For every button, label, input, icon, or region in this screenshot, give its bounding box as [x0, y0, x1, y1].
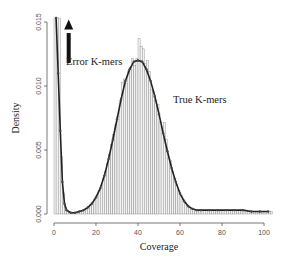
- histogram-bar: [113, 135, 115, 214]
- histogram-bar: [107, 163, 109, 214]
- y-tick-label: 0.015: [35, 13, 42, 31]
- density-marker: [187, 205, 189, 207]
- density-marker: [166, 150, 168, 152]
- histogram-bar: [102, 179, 104, 214]
- density-marker: [107, 158, 109, 160]
- density-marker: [233, 209, 235, 211]
- x-ticks: 020406080100: [52, 223, 270, 236]
- density-marker: [217, 209, 219, 211]
- histogram-bar: [54, 18, 56, 214]
- histogram-bar: [130, 67, 132, 214]
- histogram-bar: [144, 64, 146, 214]
- density-marker: [225, 209, 227, 211]
- density-marker: [200, 209, 202, 211]
- x-tick-label: 20: [92, 229, 100, 236]
- histogram-bar: [167, 158, 169, 214]
- density-marker: [191, 208, 193, 210]
- density-marker: [116, 118, 118, 120]
- histogram-bar: [140, 46, 142, 214]
- density-marker: [63, 203, 65, 205]
- histogram-bar: [174, 178, 176, 214]
- density-marker: [95, 196, 97, 198]
- density-marker: [128, 68, 130, 70]
- histogram-bar: [136, 58, 138, 214]
- density-marker: [170, 167, 172, 169]
- density-marker: [103, 174, 105, 176]
- histogram-bar: [159, 123, 161, 214]
- density-marker: [149, 80, 151, 82]
- histogram-bar: [146, 61, 148, 214]
- density-marker: [196, 209, 198, 211]
- histogram-bar: [115, 124, 117, 214]
- density-marker: [267, 210, 269, 212]
- histogram-bar: [157, 105, 159, 214]
- density-marker: [183, 200, 185, 202]
- histogram-bar: [270, 211, 272, 214]
- histogram-bar: [117, 117, 119, 214]
- density-marker: [65, 209, 67, 211]
- density-marker: [137, 59, 139, 61]
- density-marker: [179, 192, 181, 194]
- histogram-bar: [132, 58, 134, 214]
- density-marker: [82, 209, 84, 211]
- y-ticks: 0.0000.0050.0100.015: [35, 13, 47, 223]
- histogram-bar: [149, 72, 151, 214]
- x-tick-label: 60: [176, 229, 184, 236]
- density-marker: [99, 187, 101, 189]
- histogram-bar: [125, 83, 127, 214]
- density-marker: [154, 95, 156, 97]
- y-tick-label: 0.005: [35, 141, 42, 159]
- density-marker: [162, 132, 164, 134]
- x-tick-label: 0: [52, 229, 56, 236]
- histogram-bar: [119, 100, 121, 214]
- density-marker: [55, 17, 57, 19]
- density-marker: [57, 72, 59, 74]
- histogram-bars: [54, 18, 272, 214]
- density-marker: [91, 203, 93, 205]
- x-axis-title: Coverage: [140, 241, 179, 252]
- histogram-bar: [128, 71, 130, 214]
- histogram-bar: [123, 79, 125, 214]
- y-axis-title: Density: [10, 102, 21, 133]
- density-marker: [112, 139, 114, 141]
- density-marker: [133, 60, 135, 62]
- x-tick-label: 100: [258, 229, 270, 236]
- histogram-bar: [151, 90, 153, 214]
- histogram-bar: [138, 39, 140, 214]
- histogram-bar: [153, 91, 155, 214]
- density-chart: 0.0000.0050.0100.015 020406080100 Covera…: [0, 0, 283, 269]
- histogram-bar: [134, 65, 136, 214]
- histogram-bar: [172, 171, 174, 214]
- x-tick-label: 40: [134, 229, 142, 236]
- density-marker: [259, 210, 261, 212]
- histogram-bar: [109, 154, 111, 214]
- histogram-bar: [176, 185, 178, 214]
- density-marker: [158, 113, 160, 115]
- annotation-error-kmers: Error K-mers: [66, 56, 122, 67]
- histogram-bar: [121, 83, 123, 214]
- density-marker: [86, 206, 88, 208]
- arrow-up-icon: [64, 19, 73, 29]
- density-marker: [242, 209, 244, 211]
- histogram-bar: [111, 145, 113, 214]
- density-marker: [70, 212, 72, 214]
- density-marker: [78, 210, 80, 212]
- x-tick-label: 80: [218, 229, 226, 236]
- density-marker: [120, 98, 122, 100]
- density-marker: [74, 212, 76, 214]
- histogram-bar: [142, 49, 144, 214]
- density-marker: [175, 181, 177, 183]
- density-marker: [250, 210, 252, 212]
- histogram-bar: [104, 171, 106, 214]
- annotation-true-kmers: True K-mers: [173, 94, 227, 105]
- density-marker: [145, 68, 147, 70]
- density-marker: [141, 60, 143, 62]
- histogram-bar: [98, 191, 100, 214]
- histogram-bar: [155, 101, 157, 214]
- histogram-bar: [161, 126, 163, 214]
- density-marker: [59, 130, 61, 132]
- y-tick-label: 0.010: [35, 77, 42, 95]
- y-tick-label: 0.000: [35, 205, 42, 223]
- density-marker: [124, 80, 126, 82]
- density-marker: [61, 181, 63, 183]
